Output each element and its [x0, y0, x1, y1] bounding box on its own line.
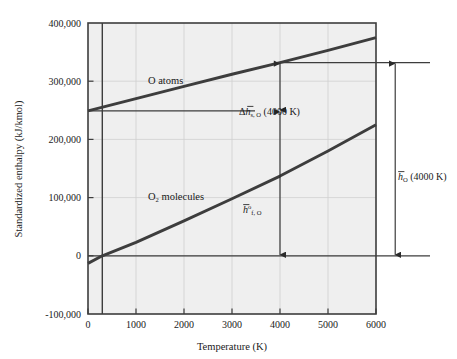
y-tick-label: 0 — [76, 250, 81, 261]
sensible-temperature: (4000 K) — [264, 106, 300, 118]
annotation-sensible-enthalpy-label: Δhs, O (4000 K) — [239, 106, 300, 118]
x-tick-label: 3000 — [222, 319, 242, 330]
y-tick-label: 300,000 — [49, 76, 82, 87]
x-axis-tick-labels: 0100020003000400050006000 — [86, 319, 387, 330]
y-axis-title: Standardized enthalpy (kJ/kmol) — [13, 100, 25, 238]
x-tick-label: 0 — [86, 319, 91, 330]
sensible-subscript: s, O — [250, 111, 261, 118]
y-axis-tick-labels: -100,0000100,000200,000300,000400,000 — [45, 18, 81, 320]
x-axis-title: Temperature (K) — [197, 341, 268, 353]
y-tick-label: 400,000 — [49, 18, 82, 29]
series-label-o-atoms: O atoms — [148, 75, 183, 86]
total-temperature: (4000 K) — [410, 171, 446, 183]
x-tick-label: 6000 — [366, 319, 386, 330]
x-tick-label: 1000 — [126, 319, 146, 330]
x-tick-label: 5000 — [318, 319, 338, 330]
chart-canvas: 0100020003000400050006000 -100,0000100,0… — [0, 0, 457, 359]
x-tick-label: 2000 — [174, 319, 194, 330]
y-tick-label: -100,000 — [45, 309, 81, 320]
annotation-total-enthalpy-label: hO (4000 K) — [398, 171, 447, 183]
enthalpy-chart-figure: 0100020003000400050006000 -100,0000100,0… — [0, 0, 457, 359]
y-tick-label: 100,000 — [49, 192, 82, 203]
y-tick-label: 200,000 — [49, 134, 82, 145]
formation-subscript: f, O — [251, 209, 261, 216]
o2-label-tail: molecules — [159, 191, 204, 202]
x-tick-label: 4000 — [270, 319, 290, 330]
